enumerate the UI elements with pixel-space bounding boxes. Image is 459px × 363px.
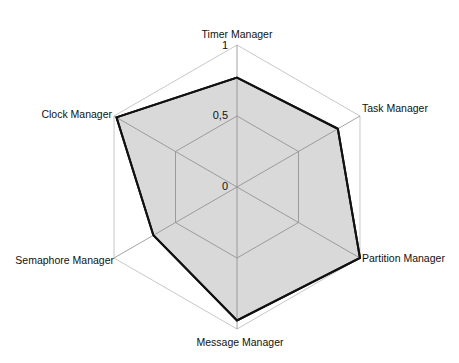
axis-label: Semaphore Manager [15, 254, 114, 266]
axis-label: Message Manager [197, 336, 284, 348]
radial-tick: 0 [222, 180, 228, 192]
axis-label: Task Manager [362, 102, 428, 114]
axis-label: Clock Manager [41, 108, 112, 120]
radial-tick: 1 [222, 39, 228, 51]
radar-chart: Timer ManagerTask ManagerPartition Manag… [0, 0, 459, 363]
axis-label: Timer Manager [202, 28, 273, 40]
radial-tick: 0,5 [213, 109, 228, 121]
data-series-area [116, 78, 359, 321]
axis-label: Partition Manager [362, 252, 445, 264]
